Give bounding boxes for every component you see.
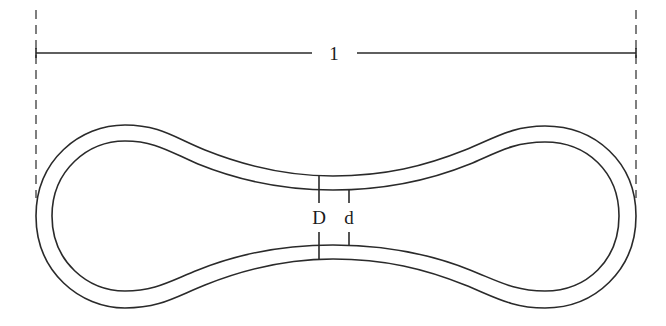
- outer-contour: [36, 125, 636, 308]
- outer-diameter-label: D: [312, 207, 326, 228]
- diagram-canvas: 1 D d: [0, 0, 666, 326]
- inner-diameter-label: d: [344, 207, 354, 228]
- length-label: 1: [329, 43, 339, 64]
- inner-contour: [52, 141, 619, 291]
